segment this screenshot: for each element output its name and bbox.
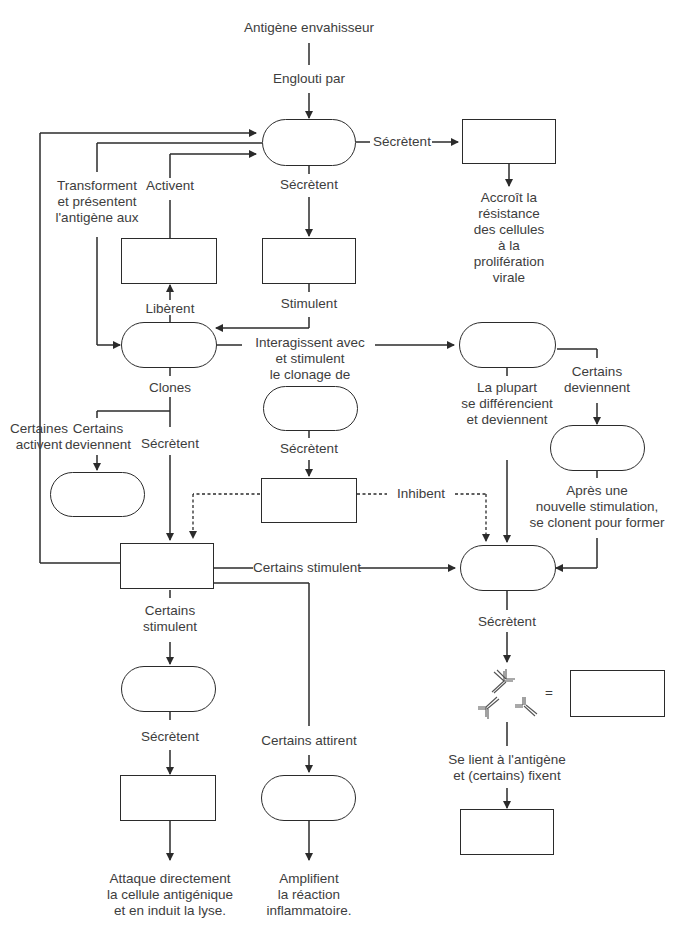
cytotoxic-t-node <box>121 666 216 712</box>
secretent-interferon-label: Sécrètent <box>370 134 434 150</box>
certains-deviennent-left-label: Certainsdeviennent <box>64 421 132 453</box>
interleukin2-box <box>121 238 217 284</box>
secretent-suppressor-label: Sécrètent <box>274 441 344 457</box>
interagissent-label: Interagissent avecet stimulentle clonage… <box>246 335 374 383</box>
b-cell-node <box>459 322 556 368</box>
antibody-icon <box>478 669 537 719</box>
certains-stimulent-horizontal-label: Certains stimulent <box>253 560 361 576</box>
secretent-lymphotoxin-label: Sécrètent <box>135 729 205 745</box>
secretent-lymphokine-label: Sécrètent <box>135 436 205 452</box>
memory-t-node <box>50 472 145 517</box>
macrophage-node <box>262 119 356 166</box>
suppressor-t-node <box>263 386 358 431</box>
complement-box <box>460 809 554 855</box>
liberent-label: Libèrent <box>140 301 200 317</box>
inhibent-label: Inhibent <box>388 486 454 502</box>
secretent-antibodies-label: Sécrètent <box>472 614 542 630</box>
accroit-label: Accroît larésistancedes cellulesà laprol… <box>469 190 549 286</box>
lymphotoxin-box <box>120 775 216 821</box>
suppressor-factor-box <box>261 478 357 523</box>
interleukin1-box <box>262 238 356 284</box>
certains-stimulent-vertical-label: Certainsstimulent <box>135 603 205 635</box>
la-plupart-label: La plupartse différencientet deviennent <box>457 380 557 428</box>
certaines-activent-label: Certainesactivent <box>6 421 72 453</box>
englouti-label: Englouti par <box>264 71 354 87</box>
interferon-box <box>462 119 556 164</box>
plasma-cell-node <box>460 545 556 591</box>
amplifient-label: Amplifientla réactioninflammatoire. <box>259 871 359 919</box>
antibodies-box <box>570 670 665 717</box>
stimulent-label: Stimulent <box>274 296 344 312</box>
activent-label: Activent <box>140 178 200 194</box>
helper-t-node <box>121 322 217 368</box>
transforment-label: Transformentet présententl'antigène aux <box>52 178 142 226</box>
apres-une-label: Après unenouvelle stimulation,se clonent… <box>527 483 667 531</box>
secretent-il1-label: Sécrètent <box>274 177 344 193</box>
certains-deviennent-right-label: Certainsdeviennent <box>562 364 632 396</box>
attaque-label: Attaque directementla cellule antigéniqu… <box>100 871 240 919</box>
lymphokine-box <box>120 543 214 589</box>
certains-attirent-label: Certains attirent <box>257 733 361 749</box>
clones-label: Clones <box>140 380 200 396</box>
se-lient-label: Se lient à l'antigèneet (certains) fixen… <box>442 752 572 784</box>
macrophage-attracted-node <box>261 775 356 821</box>
equals-sign: = <box>542 685 556 701</box>
memory-b-node <box>550 425 645 471</box>
antigen-label: Antigène envahisseur <box>239 20 379 36</box>
